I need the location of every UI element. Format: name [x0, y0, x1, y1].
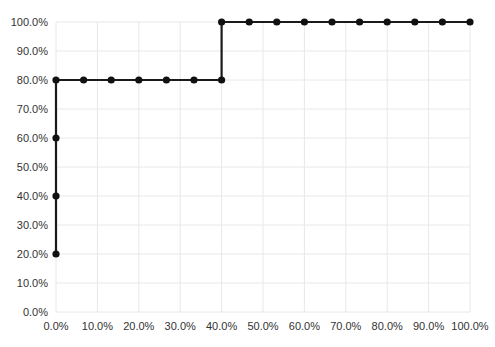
- y-tick-label: 10.0%: [17, 277, 48, 289]
- y-tick-label: 0.0%: [23, 306, 48, 318]
- x-tick-label: 70.0%: [330, 320, 361, 332]
- data-point: [411, 18, 418, 25]
- data-point: [52, 250, 59, 257]
- y-tick-label: 40.0%: [17, 190, 48, 202]
- data-point: [384, 18, 391, 25]
- x-tick-label: 10.0%: [82, 320, 113, 332]
- data-point: [218, 18, 225, 25]
- y-tick-label: 80.0%: [17, 74, 48, 86]
- data-point: [356, 18, 363, 25]
- data-point: [80, 76, 87, 83]
- y-tick-label: 70.0%: [17, 103, 48, 115]
- y-tick-label: 50.0%: [17, 161, 48, 173]
- data-point: [218, 76, 225, 83]
- data-point: [52, 192, 59, 199]
- data-point: [466, 18, 473, 25]
- x-tick-label: 100.0%: [451, 320, 489, 332]
- data-point: [190, 76, 197, 83]
- data-point: [108, 76, 115, 83]
- data-point: [273, 18, 280, 25]
- y-tick-label: 100.0%: [11, 16, 49, 28]
- y-tick-label: 20.0%: [17, 248, 48, 260]
- data-point: [328, 18, 335, 25]
- data-point: [135, 76, 142, 83]
- x-tick-label: 20.0%: [123, 320, 154, 332]
- x-tick-label: 50.0%: [247, 320, 278, 332]
- data-point: [246, 18, 253, 25]
- x-tick-label: 90.0%: [413, 320, 444, 332]
- x-tick-label: 40.0%: [206, 320, 237, 332]
- step-line-chart: 0.0%10.0%20.0%30.0%40.0%50.0%60.0%70.0%8…: [0, 0, 495, 347]
- x-tick-label: 30.0%: [165, 320, 196, 332]
- data-point: [301, 18, 308, 25]
- data-point: [52, 134, 59, 141]
- x-tick-label: 0.0%: [43, 320, 68, 332]
- chart-canvas: 0.0%10.0%20.0%30.0%40.0%50.0%60.0%70.0%8…: [0, 0, 495, 347]
- y-tick-label: 90.0%: [17, 45, 48, 57]
- x-tick-label: 80.0%: [372, 320, 403, 332]
- x-tick-label: 60.0%: [289, 320, 320, 332]
- y-tick-label: 60.0%: [17, 132, 48, 144]
- data-point: [439, 18, 446, 25]
- y-tick-label: 30.0%: [17, 219, 48, 231]
- data-point: [163, 76, 170, 83]
- data-point: [52, 76, 59, 83]
